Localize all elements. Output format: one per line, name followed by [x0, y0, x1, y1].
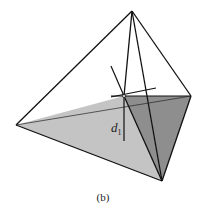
figure-caption: (b) — [97, 191, 110, 204]
tetrahedron-figure: d1 (b) — [0, 0, 206, 210]
center-point — [123, 95, 126, 98]
tetrahedron-diagram: d1 (b) — [0, 0, 206, 210]
